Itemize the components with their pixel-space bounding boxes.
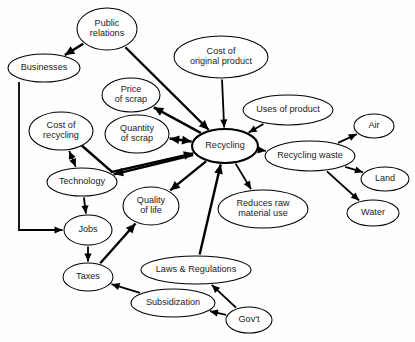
node-label-line: of scrap bbox=[121, 134, 153, 144]
node-label-line: Quality bbox=[137, 195, 166, 205]
edge-waste-air bbox=[338, 134, 357, 143]
edge-govt-subsid bbox=[210, 309, 226, 316]
arrowhead bbox=[84, 254, 91, 262]
node-quantity_of_scrap[interactable]: Quantityof scrap bbox=[105, 115, 169, 153]
node-cost_original_product[interactable]: Cost oforiginal product bbox=[174, 36, 268, 78]
node-label: Uses of product bbox=[256, 104, 320, 114]
edge-uses-recycling bbox=[249, 124, 264, 132]
node-jobs[interactable]: Jobs bbox=[64, 215, 112, 245]
node-label-line: relations bbox=[90, 29, 125, 39]
arrowhead bbox=[111, 283, 120, 290]
arrowhead bbox=[220, 119, 227, 127]
node-label: Laws & Regulations bbox=[156, 264, 237, 274]
node-label: Subsidization bbox=[146, 297, 200, 307]
node-label: Quantityof scrap bbox=[120, 123, 154, 143]
edge-waste-water bbox=[327, 171, 359, 200]
node-label-line: of life bbox=[140, 206, 162, 216]
node-technology[interactable]: Technology bbox=[47, 168, 117, 196]
node-label: Land bbox=[375, 173, 395, 183]
node-label: Jobs bbox=[78, 224, 98, 234]
node-label-line: Land bbox=[375, 173, 395, 183]
node-recycling[interactable]: Recycling bbox=[192, 129, 258, 163]
node-uses_of_product[interactable]: Uses of product bbox=[243, 95, 333, 125]
node-label-line: Gov't bbox=[239, 314, 260, 324]
node-label-line: Air bbox=[368, 120, 379, 130]
node-subsidization[interactable]: Subsidization bbox=[131, 289, 215, 317]
node-label: Gov't bbox=[239, 314, 260, 324]
node-label-line: Uses of product bbox=[256, 104, 320, 114]
node-price_of_scrap[interactable]: Priceof scrap bbox=[102, 78, 160, 112]
edge-cost-orig-recycling bbox=[220, 80, 227, 128]
node-label-line: Laws & Regulations bbox=[156, 264, 237, 274]
node-label: Water bbox=[361, 207, 385, 217]
node-label-line: Businesses bbox=[21, 62, 68, 72]
node-label-line: Jobs bbox=[78, 224, 98, 234]
node-label-line: Reduces raw bbox=[236, 198, 290, 208]
node-label: Taxes bbox=[76, 271, 100, 281]
node-label: Qualityof life bbox=[137, 195, 166, 215]
edge-recycling-reduces bbox=[236, 164, 251, 190]
node-reduces_raw_material[interactable]: Reduces rawmaterial use bbox=[218, 190, 308, 228]
node-label-line: Water bbox=[361, 207, 385, 217]
node-label: Air bbox=[368, 120, 379, 130]
node-label: Businesses bbox=[21, 62, 68, 72]
node-taxes[interactable]: Taxes bbox=[63, 263, 113, 291]
node-label-line: Price bbox=[121, 84, 142, 94]
concept-map-diagram: PublicrelationsCost oforiginal productBu… bbox=[0, 0, 415, 342]
node-public_relations[interactable]: Publicrelations bbox=[77, 8, 137, 50]
edge-line bbox=[19, 82, 63, 230]
arrowhead bbox=[210, 309, 219, 316]
node-label: Reduces rawmaterial use bbox=[236, 198, 290, 218]
node-label-line: Taxes bbox=[76, 271, 100, 281]
node-quality_of_life[interactable]: Qualityof life bbox=[123, 187, 179, 225]
edge-technology-jobs bbox=[81, 197, 88, 213]
edge-line bbox=[114, 155, 193, 174]
node-label-line: Public bbox=[95, 18, 120, 28]
node-label-line: Technology bbox=[59, 176, 105, 186]
edge-recycling-quality bbox=[170, 161, 206, 190]
arrowhead bbox=[354, 166, 363, 173]
edge-govt-laws bbox=[212, 285, 236, 308]
node-land[interactable]: Land bbox=[361, 167, 409, 191]
node-label-line: Cost of bbox=[207, 46, 236, 56]
node-water[interactable]: Water bbox=[347, 200, 399, 226]
edge-cost-rec-technology bbox=[69, 151, 76, 167]
node-label-line: Quantity bbox=[120, 123, 154, 133]
node-businesses[interactable]: Businesses bbox=[8, 54, 80, 82]
arrowhead bbox=[55, 226, 63, 233]
node-air[interactable]: Air bbox=[354, 114, 394, 138]
node-cost_of_recycling[interactable]: Cost ofrecycling bbox=[29, 112, 93, 150]
node-label-line: of scrap bbox=[115, 95, 147, 105]
node-label-line: Recycling waste bbox=[277, 150, 343, 160]
node-govt[interactable]: Gov't bbox=[226, 307, 272, 333]
edge-recycling-technology bbox=[114, 155, 193, 176]
node-label-line: Cost of bbox=[47, 120, 76, 130]
node-label-line: material use bbox=[238, 209, 288, 219]
node-label: Recycling bbox=[205, 140, 244, 150]
node-label-line: original product bbox=[190, 57, 253, 67]
node-label: Technology bbox=[59, 176, 105, 186]
node-label-line: Recycling bbox=[205, 140, 244, 150]
edge-waste-land bbox=[345, 166, 363, 173]
node-recycling_waste[interactable]: Recycling waste bbox=[265, 141, 355, 171]
node-label-line: Subsidization bbox=[146, 297, 200, 307]
node-label: Cost ofrecycling bbox=[43, 120, 79, 140]
node-laws_regulations[interactable]: Laws & Regulations bbox=[141, 256, 251, 284]
concept-map-canvas: PublicrelationsCost oforiginal productBu… bbox=[0, 0, 415, 342]
node-label-line: recycling bbox=[43, 131, 79, 141]
edge-recycling-quantity bbox=[170, 135, 192, 144]
edge-jobs-taxes bbox=[84, 247, 91, 262]
edge-pr-businesses bbox=[65, 44, 83, 55]
nodes-layer: PublicrelationsCost oforiginal productBu… bbox=[8, 8, 409, 333]
node-label: Recycling waste bbox=[277, 150, 343, 160]
edge-subsid-taxes bbox=[111, 283, 140, 293]
edge-businesses-jobs bbox=[19, 82, 63, 234]
